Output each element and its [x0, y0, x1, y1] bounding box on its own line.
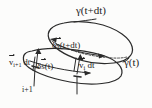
v-vector-i: v: [79, 61, 84, 70]
v-subscript-i-plus-1: i+1: [13, 62, 21, 68]
label-index-i-plus-1: i+1: [22, 86, 33, 94]
s-vector-lower: s: [41, 62, 45, 71]
label-v-i-dt: vi dt: [79, 61, 95, 71]
delta-s-lower-argument: (t): [45, 61, 54, 71]
label-delta-s-t: δs(t): [37, 62, 53, 71]
v-i-plus-1-dt-suffix: dt: [24, 57, 31, 67]
node-tick-i: [74, 76, 81, 77]
label-gamma-t: γ(t): [124, 57, 139, 68]
caption-separator-right: [74, 58, 76, 71]
label-v-i-plus-1-dt: vi+1 dt: [9, 58, 30, 68]
label-delta-s-t-plus-dt: δs(t+dt): [52, 41, 80, 50]
s-vector-upper: s: [56, 41, 60, 50]
loop-advection-diagram: γ(t+dt) γ(t) δs(t+dt) δs(t) vi dt vi+1 d…: [0, 0, 152, 108]
delta-s-upper-argument: (t+dt): [60, 40, 81, 50]
v-i-dt-suffix: dt: [88, 60, 95, 70]
label-gamma-t-plus-dt: γ(t+dt): [76, 5, 106, 16]
v-vector-i-plus-1: v: [9, 58, 13, 67]
